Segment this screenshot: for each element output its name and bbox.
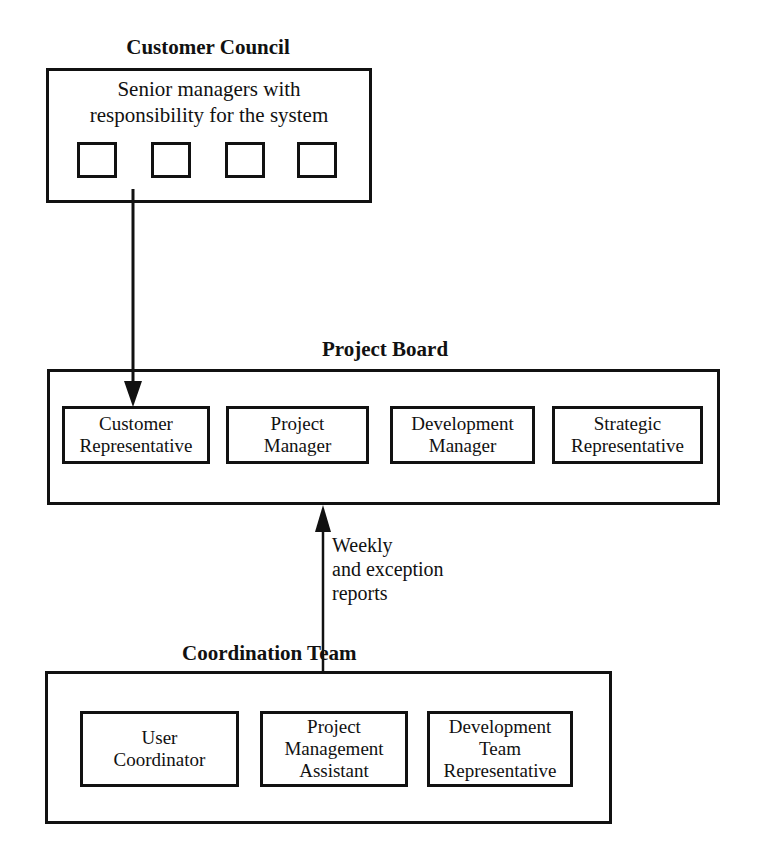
- role-strategic-representative: Strategic Representative: [552, 406, 703, 464]
- role-development-team-representative: Development Team Representative: [427, 711, 573, 787]
- description-line-2: responsibility for the system: [46, 102, 372, 128]
- role-line: Project: [271, 413, 325, 435]
- report-annotation: Weekly and exception reports: [332, 533, 444, 605]
- project-board-title: Project Board: [285, 337, 485, 361]
- customer-council-description: Senior managers with responsibility for …: [46, 76, 372, 128]
- customer-council-title: Customer Council: [108, 35, 308, 59]
- role-user-coordinator: User Coordinator: [80, 711, 239, 787]
- role-line: Representative: [80, 435, 193, 457]
- annotation-line-3: reports: [332, 581, 444, 605]
- council-member-slot-4: [297, 142, 337, 178]
- role-line: Manager: [264, 435, 332, 457]
- council-member-slot-1: [77, 142, 117, 178]
- role-line: Development: [449, 716, 551, 738]
- role-development-manager: Development Manager: [390, 406, 535, 464]
- description-line-1: Senior managers with: [46, 76, 372, 102]
- role-line: Strategic: [594, 413, 662, 435]
- role-customer-representative: Customer Representative: [62, 406, 210, 464]
- role-line: Management: [284, 738, 383, 760]
- role-line: Team: [479, 738, 521, 760]
- coordination-team-title-text: Coordination Team: [182, 641, 356, 665]
- role-line: Manager: [429, 435, 497, 457]
- role-line: Representative: [444, 760, 557, 782]
- council-member-slot-2: [151, 142, 191, 178]
- role-line: Development: [411, 413, 513, 435]
- role-line: Customer: [99, 413, 173, 435]
- role-project-manager: Project Manager: [226, 406, 369, 464]
- role-line: User: [142, 727, 178, 749]
- council-member-slot-3: [225, 142, 265, 178]
- role-line: Coordinator: [114, 749, 206, 771]
- role-line: Representative: [571, 435, 684, 457]
- role-project-management-assistant: Project Management Assistant: [260, 711, 408, 787]
- annotation-line-1: Weekly: [332, 533, 444, 557]
- role-line: Project: [307, 716, 361, 738]
- annotation-line-2: and exception: [332, 557, 444, 581]
- coordination-team-title: Coordination Team: [182, 641, 392, 665]
- role-line: Assistant: [299, 760, 369, 782]
